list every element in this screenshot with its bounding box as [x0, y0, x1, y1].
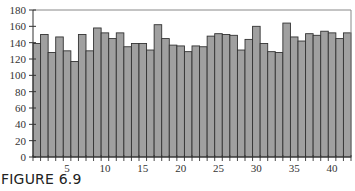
bar [200, 47, 208, 157]
y-tick-label: 100 [10, 69, 27, 81]
bar [253, 26, 261, 157]
bar [260, 43, 268, 157]
bar [290, 37, 298, 157]
bar [162, 39, 170, 157]
bar [101, 33, 109, 157]
y-axis: 020406080100120140160180 [10, 4, 37, 163]
x-tick-label: 10 [99, 162, 111, 174]
bar [124, 47, 132, 157]
bar [283, 23, 291, 157]
bar [343, 33, 351, 157]
bar [245, 39, 253, 157]
y-tick-label: 0 [21, 151, 27, 163]
bar [48, 52, 56, 157]
x-tick-label: 20 [175, 162, 187, 174]
y-tick-label: 180 [10, 4, 27, 16]
y-tick-label: 80 [15, 86, 27, 98]
bar [207, 36, 215, 157]
bar [33, 43, 41, 157]
y-tick-label: 20 [15, 135, 27, 147]
bar [86, 51, 94, 157]
bar [184, 52, 192, 157]
bar [275, 52, 283, 157]
bar [268, 52, 276, 157]
bar [139, 43, 147, 157]
bar [313, 35, 321, 157]
bar [230, 35, 238, 157]
y-tick-label: 140 [10, 37, 27, 49]
bar [116, 33, 124, 157]
bar [94, 28, 102, 157]
bar [41, 35, 49, 158]
x-tick-label: 15 [137, 162, 149, 174]
y-tick-label: 40 [15, 118, 27, 130]
bar [222, 35, 230, 158]
y-tick-label: 120 [10, 53, 27, 65]
x-tick-label: 40 [327, 162, 339, 174]
y-tick-label: 60 [15, 102, 27, 114]
bar [131, 43, 139, 157]
x-tick-label: 35 [289, 162, 301, 174]
bar [192, 46, 200, 157]
x-tick-label: 30 [251, 162, 263, 174]
bar [298, 41, 306, 157]
bars-group [33, 23, 351, 157]
bar [78, 35, 86, 158]
bar [169, 45, 177, 157]
bar [154, 25, 162, 157]
bar [215, 34, 223, 157]
bar [237, 50, 245, 157]
bar [71, 61, 79, 157]
figure-caption: FIGURE 6.9 [1, 171, 82, 187]
bar [336, 39, 344, 157]
bar [56, 37, 64, 157]
bar [147, 50, 155, 157]
bar [177, 46, 185, 157]
bar [63, 51, 71, 157]
bar [321, 31, 329, 157]
x-tick-label: 25 [213, 162, 225, 174]
bar [328, 33, 336, 157]
bar-chart: 020406080100120140160180 510152025303540 [0, 0, 355, 191]
y-tick-label: 160 [10, 20, 27, 32]
bar [306, 34, 314, 157]
bar [109, 39, 117, 157]
